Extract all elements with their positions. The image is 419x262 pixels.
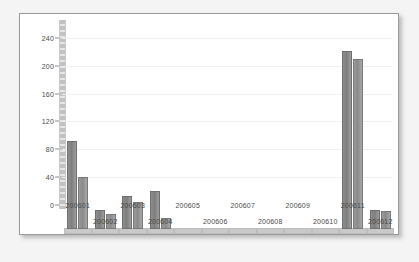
x-axis-tick-label: 200602 <box>93 218 118 225</box>
x-axis-tick-label: 200603 <box>120 202 145 209</box>
y-axis-tick <box>55 93 59 94</box>
chart-plot-area: 04080120160200240 2006012006022006032006… <box>20 14 398 234</box>
x-axis-tick-label: 200608 <box>258 218 283 225</box>
x-axis-tick-label: 200606 <box>203 218 228 225</box>
y-axis-tick <box>55 149 59 150</box>
x-axis-tick-label: 200601 <box>65 202 90 209</box>
y-axis-labels: 04080120160200240 <box>26 14 54 234</box>
x-axis-tick-label: 200604 <box>148 218 173 225</box>
x-axis-tick-label: 200612 <box>368 218 393 225</box>
y-axis-tick <box>55 37 59 38</box>
y-axis-tick-label: 160 <box>42 90 54 97</box>
x-axis-tick-label: 200611 <box>341 202 365 209</box>
y-axis-tick <box>55 205 59 206</box>
x-axis-tick-label: 200607 <box>230 202 255 209</box>
y-axis-tick-label: 200 <box>42 62 54 69</box>
x-axis-tick-label: 200610 <box>313 218 338 225</box>
y-axis-tick-label: 40 <box>46 174 54 181</box>
x-axis-tick-label: 200609 <box>285 202 310 209</box>
y-axis-tick <box>55 65 59 66</box>
y-axis-tick <box>55 177 59 178</box>
x-axis-tick-label: 200605 <box>175 202 200 209</box>
x-axis-labels: 2006012006022006032006042006052006062006… <box>64 188 392 234</box>
y-axis-tick-label: 120 <box>42 118 54 125</box>
y-axis-tick-label: 240 <box>42 34 54 41</box>
y-axis-tick <box>55 121 59 122</box>
y-axis-tick-label: 0 <box>50 202 54 209</box>
chart-card: 04080120160200240 2006012006022006032006… <box>19 13 399 235</box>
y-axis-tick-label: 80 <box>46 146 54 153</box>
